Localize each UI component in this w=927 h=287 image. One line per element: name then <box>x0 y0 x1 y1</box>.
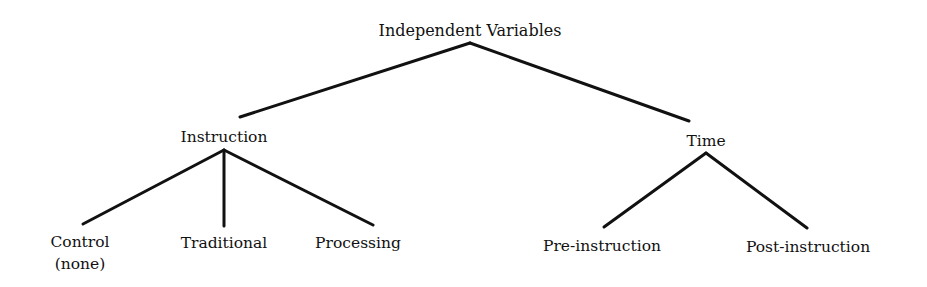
node-control-sublabel: (none) <box>50 253 109 275</box>
node-control-label: Control <box>50 231 109 253</box>
node-preinstruction: Pre-instruction <box>543 235 661 257</box>
node-traditional-label: Traditional <box>181 234 268 252</box>
edge-instruction-processing <box>224 150 373 225</box>
node-processing: Processing <box>315 232 401 254</box>
node-instruction: Instruction <box>181 126 268 148</box>
node-control: Control (none) <box>50 231 109 275</box>
node-postinstruction-label: Post-instruction <box>746 238 870 256</box>
node-preinstruction-label: Pre-instruction <box>543 237 661 255</box>
edge-time-postinstruction <box>706 153 807 228</box>
node-time-label: Time <box>686 132 725 150</box>
node-processing-label: Processing <box>315 234 401 252</box>
node-time: Time <box>686 130 725 152</box>
edge-root-time <box>470 43 689 121</box>
edge-instruction-control <box>83 150 224 224</box>
tree-diagram: Independent Variables Instruction Time C… <box>0 0 927 287</box>
node-postinstruction: Post-instruction <box>746 236 870 258</box>
node-root: Independent Variables <box>379 20 562 42</box>
node-traditional: Traditional <box>181 232 268 254</box>
edge-root-instruction <box>240 43 470 117</box>
edge-time-preinstruction <box>604 153 706 227</box>
node-instruction-label: Instruction <box>181 128 268 146</box>
node-root-label: Independent Variables <box>379 21 562 40</box>
